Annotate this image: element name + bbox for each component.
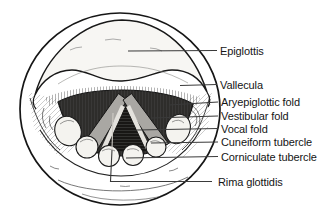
label-aryepiglottic-fold: Aryepiglottic fold xyxy=(221,97,300,108)
leader-epiglottis xyxy=(128,51,217,52)
label-corniculate-tubercle: Corniculate tubercle xyxy=(221,151,317,162)
larynx-diagram: Epiglottis Vallecula Aryepiglottic fold … xyxy=(0,0,331,216)
label-vocal-fold: Vocal fold xyxy=(221,123,268,134)
label-rima-glottidis: Rima glottidis xyxy=(218,176,283,187)
label-vestibular-fold: Vestibular fold xyxy=(221,111,289,122)
label-epiglottis: Epiglottis xyxy=(220,45,264,56)
label-vallecula: Vallecula xyxy=(220,79,263,90)
label-cuneiform-tubercle: Cuneiform tubercle xyxy=(221,137,312,148)
